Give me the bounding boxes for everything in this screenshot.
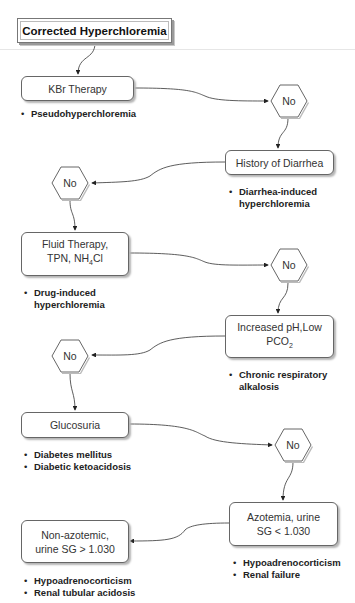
decision-label: No: [51, 166, 89, 200]
outcome-item: Diabetes mellitus: [24, 449, 164, 461]
node-glucosuria: Glucosuria: [21, 412, 129, 438]
decision-label: No: [270, 248, 308, 282]
decision-no-4: No: [51, 339, 89, 373]
outcome-list-ph: Chronic respiratory alkalosis: [229, 369, 354, 393]
text: TPN, NH: [47, 252, 89, 264]
decision-label: No: [270, 84, 308, 118]
outcome-item: Chronic respiratory alkalosis: [229, 369, 354, 393]
decision-no-1: No: [270, 84, 308, 118]
outcome-list-nonazotemic: Hypoadrenocorticism Renal tubular acidos…: [24, 575, 164, 599]
outcome-list-diarrhea: Diarrhea-induced hyperchloremia: [229, 186, 349, 210]
node-history-of-diarrhea: History of Diarrhea: [225, 150, 334, 175]
decision-label: No: [51, 339, 89, 373]
start-title-box: Corrected Hyperchloremia: [17, 18, 172, 43]
node-label-line2: SG < 1.030: [257, 524, 310, 538]
node-increased-ph-low-pco2: Increased pH,Low PCO2: [225, 315, 334, 358]
outcome-list-kbr: Pseudohyperchloremia: [21, 108, 181, 120]
outcome-item: Hypoadrenocorticism: [24, 575, 164, 587]
decision-no-5: No: [274, 428, 312, 462]
node-label-line2: TPN, NH4Cl: [47, 251, 103, 270]
outcome-list-fluid: Drug-induced hyperchloremia: [24, 287, 144, 311]
outcome-item: Pseudohyperchloremia: [21, 108, 181, 120]
outcome-item: Renal tubular acidosis: [24, 587, 164, 599]
decision-no-2: No: [51, 166, 89, 200]
node-label-line1: Non-azotemic,: [41, 528, 109, 542]
node-kbr-therapy: KBr Therapy: [21, 76, 134, 101]
decision-no-3: No: [270, 248, 308, 282]
node-label: History of Diarrhea: [236, 156, 324, 170]
node-azotemia: Azotemia, urine SG < 1.030: [229, 502, 338, 546]
node-label-line1: Azotemia, urine: [247, 510, 320, 524]
outcome-item: Diarrhea-induced hyperchloremia: [229, 186, 349, 210]
node-non-azotemic: Non-azotemic, urine SG > 1.030: [21, 520, 129, 563]
title-text: Corrected Hyperchloremia: [22, 25, 166, 37]
outcome-list-glucosuria: Diabetes mellitus Diabetic ketoacidosis: [24, 449, 164, 473]
node-fluid-therapy: Fluid Therapy, TPN, NH4Cl: [21, 232, 129, 276]
node-label-line2: urine SG > 1.030: [35, 542, 115, 556]
node-label-line1: Increased pH,Low: [237, 320, 322, 334]
subscript: 2: [289, 342, 293, 349]
outcome-item: Drug-induced hyperchloremia: [24, 287, 144, 311]
node-label-line1: Fluid Therapy,: [42, 237, 108, 251]
node-label: Glucosuria: [50, 418, 100, 432]
decision-label: No: [274, 428, 312, 462]
outcome-item: Renal failure: [233, 569, 355, 581]
text: Cl: [93, 252, 103, 264]
outcome-item: Hypoadrenocorticism: [233, 557, 355, 569]
node-label-line2: PCO2: [266, 334, 293, 353]
outcome-list-azotemia: Hypoadrenocorticism Renal failure: [233, 557, 355, 581]
text: PCO: [266, 335, 289, 347]
outcome-item: Diabetic ketoacidosis: [24, 461, 164, 473]
node-label: KBr Therapy: [48, 82, 107, 96]
